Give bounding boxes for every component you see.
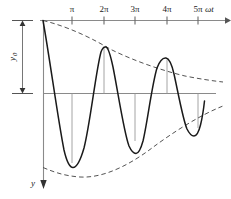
bracket-arrow-down <box>20 88 26 94</box>
horizontal-axis-label: ωt <box>205 4 214 14</box>
vertical-axis-label: y <box>30 178 35 188</box>
axis-tick-labels: π 2π 3π 4π 5π ωt <box>70 4 215 14</box>
extrema-stems <box>72 47 198 163</box>
amplitude-dimension-bracket: y 0 <box>7 21 33 94</box>
tick-label-3pi: 3π <box>130 4 140 14</box>
tick-label-pi: π <box>70 4 75 14</box>
upper-envelope-curve <box>43 21 223 83</box>
tick-label-5pi: 5π <box>193 4 203 14</box>
tick-label-4pi: 4π <box>162 4 172 14</box>
tick-label-2pi: 2π <box>99 4 109 14</box>
amplitude-label-subscript: 0 <box>11 52 18 56</box>
vertical-axis: y <box>30 20 47 189</box>
amplitude-label-y: y <box>7 57 17 62</box>
amplitude-label-group: y 0 <box>7 52 18 62</box>
horizontal-axis-arrow <box>225 17 231 23</box>
damped-oscillation-figure: π 2π 3π 4π 5π ωt y y 0 <box>0 0 231 199</box>
bracket-arrow-up <box>20 21 26 27</box>
vertical-axis-arrow <box>40 180 46 189</box>
